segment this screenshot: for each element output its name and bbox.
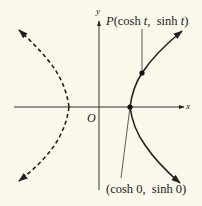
point-p-dot: [139, 70, 144, 75]
cosh-fn: cosh: [118, 14, 141, 28]
vertex-leader: [121, 107, 130, 178]
vertex-dot: [127, 104, 132, 109]
point-p-label: P(cosh t, sinh t): [106, 15, 188, 28]
hyperbola-diagram: y x O P(cosh t, sinh t) (cosh 0, sinh 0): [0, 0, 202, 206]
x-axis-label: x: [186, 102, 190, 111]
vertex-label: (cosh 0, sinh 0): [106, 183, 186, 196]
origin-label: O: [87, 112, 96, 124]
sinh-fn: sinh: [157, 14, 178, 28]
comma: ,: [147, 14, 150, 28]
diagram-graphics: [0, 0, 202, 206]
left-branch-upper: [19, 30, 69, 107]
y-axis-label: y: [96, 7, 100, 16]
right-branch-lower: [130, 107, 180, 183]
left-branch-lower: [19, 107, 69, 181]
right-branch-upper: [130, 31, 182, 107]
paren-close: ): [184, 14, 188, 28]
point-p-name: P: [106, 14, 114, 28]
